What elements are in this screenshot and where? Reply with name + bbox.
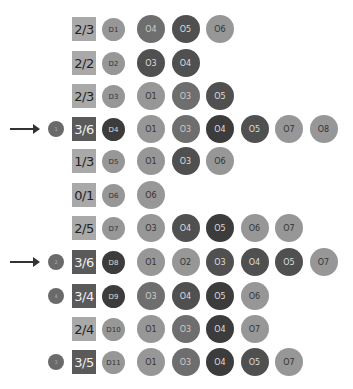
o-node: O7 [275,214,303,242]
o-node: O1 [137,147,165,175]
o-node: O4 [172,49,200,77]
arrow-right-icon [10,128,38,130]
d-node: D10 [102,318,125,341]
diagram-row: 2/2D2O3O4 [0,48,353,78]
step-marker: 4 [48,288,64,304]
o-node: O4 [206,348,234,376]
fraction-box: 3/6 [72,117,96,141]
diagram-row: 2/5D7O3O4O5O6O7 [0,213,353,243]
o-node: O3 [172,348,200,376]
o-node: O5 [172,15,200,43]
o-node: O1 [137,115,165,143]
o-node: O3 [137,49,165,77]
o-node: O4 [241,248,269,276]
fraction-box: 0/1 [72,183,96,207]
step-marker: 2 [48,254,64,270]
diagram-row: 23/6D8O1O2O3O4O5O7 [0,247,353,277]
o-node: O4 [172,282,200,310]
fraction-box: 2/4 [72,317,96,341]
o-node: O5 [206,282,234,310]
o-node: O7 [310,248,338,276]
o-node: O6 [137,181,165,209]
fraction-box: 2/5 [72,216,96,240]
diagram-row: 2/3D1O4O5O6 [0,14,353,44]
step-marker: 3 [48,354,64,370]
diagram-row: 43/4D9O3O4O5O6 [0,281,353,311]
d-node: D9 [102,285,125,308]
o-node: O6 [241,214,269,242]
o-node: O1 [137,82,165,110]
d-node: D6 [102,184,125,207]
d-node: D7 [102,217,125,240]
o-node: O8 [310,115,338,143]
d-node: D2 [102,52,125,75]
fraction-box: 2/3 [72,84,96,108]
diagram-row: 1/3D5O1O3O6 [0,146,353,176]
o-node: O4 [137,15,165,43]
step-marker: 1 [48,121,64,137]
o-node: O4 [172,214,200,242]
o-node: O5 [206,214,234,242]
diagram-row: 2/3D3O1O3O5 [0,81,353,111]
o-node: O7 [275,115,303,143]
o-node: O6 [206,147,234,175]
diagram-row: 2/4D10O1O3O4O7 [0,314,353,344]
o-node: O3 [172,315,200,343]
o-node: O7 [275,348,303,376]
fraction-box: 3/5 [72,350,96,374]
o-node: O5 [241,348,269,376]
o-node: O6 [241,282,269,310]
o-node: O7 [241,315,269,343]
fraction-box: 3/4 [72,284,96,308]
o-node: O2 [172,248,200,276]
o-node: O3 [137,282,165,310]
o-node: O4 [206,315,234,343]
o-node: O1 [137,248,165,276]
o-node: O6 [206,15,234,43]
d-node: D11 [102,351,125,374]
o-node: O5 [241,115,269,143]
fraction-box: 2/3 [72,17,96,41]
diagram-row: 13/6D4O1O3O4O5O7O8 [0,114,353,144]
o-node: O4 [206,115,234,143]
o-node: O1 [137,348,165,376]
d-node: D3 [102,85,125,108]
d-node: D5 [102,150,125,173]
o-node: O3 [206,248,234,276]
o-node: O3 [137,214,165,242]
fraction-box: 2/2 [72,51,96,75]
d-node: D8 [102,251,125,274]
d-node: D4 [102,118,125,141]
diagram-row: 0/1D6O6 [0,180,353,210]
fraction-box: 3/6 [72,250,96,274]
o-node: O3 [172,147,200,175]
o-node: O5 [206,82,234,110]
fraction-box: 1/3 [72,149,96,173]
o-node: O1 [137,315,165,343]
arrow-right-icon [10,261,38,263]
d-node: D1 [102,18,125,41]
o-node: O5 [275,248,303,276]
diagram-row: 33/5D11O1O3O4O5O7 [0,347,353,377]
o-node: O3 [172,115,200,143]
o-node: O3 [172,82,200,110]
